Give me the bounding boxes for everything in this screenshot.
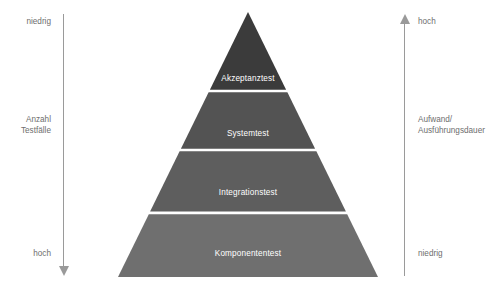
right-axis-line <box>404 24 405 276</box>
left-axis-title: Anzahl Testfälle <box>0 114 51 136</box>
left-axis-top-label: niedrig <box>26 16 51 27</box>
diagram-canvas: niedrig Anzahl Testfälle hoch hoch Aufwa… <box>0 0 496 293</box>
right-axis-title: Aufwand/ Ausführungsdauer <box>418 114 485 136</box>
pyramid-tier-4[interactable] <box>118 214 378 277</box>
test-pyramid: Akzeptanztest Systemtest Integrationstes… <box>118 12 378 277</box>
pyramid-tiers <box>118 12 378 277</box>
pyramid-svg <box>118 12 378 277</box>
right-axis-top-label: hoch <box>418 16 436 27</box>
arrow-down-icon <box>59 266 69 276</box>
pyramid-tier-2[interactable] <box>181 92 315 148</box>
right-axis <box>404 14 405 276</box>
left-axis-bottom-label: hoch <box>33 248 51 259</box>
left-axis-line <box>63 14 64 266</box>
right-axis-bottom-label: niedrig <box>418 248 443 259</box>
pyramid-tier-3[interactable] <box>150 151 346 211</box>
arrow-up-icon <box>400 14 410 24</box>
pyramid-tier-1[interactable] <box>210 12 286 90</box>
left-axis <box>63 14 64 276</box>
